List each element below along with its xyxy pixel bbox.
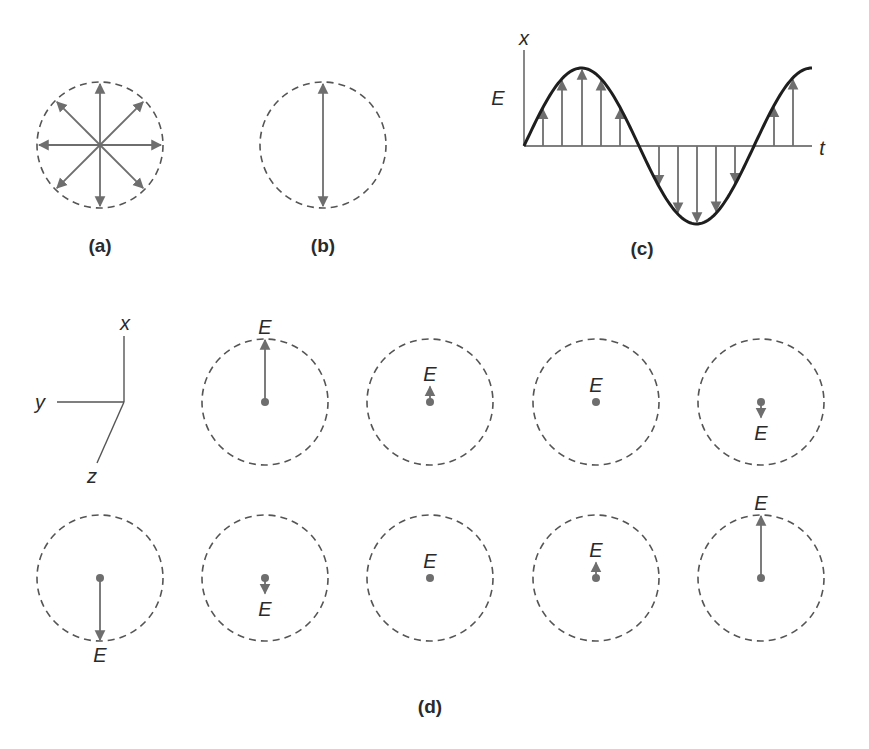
axis-z-label: z (86, 465, 97, 487)
field-circle: E (367, 339, 493, 465)
origin-dot (426, 574, 434, 582)
axis-y-label: y (33, 391, 46, 413)
axis-t-label: t (819, 137, 826, 159)
caption-d: (d) (418, 696, 442, 717)
e-vector-arrows (39, 84, 161, 206)
field-circle: E (698, 492, 824, 641)
field-circle: E (367, 515, 493, 641)
axis-e-label: E (491, 87, 505, 109)
panel-b-polarized: (b) (260, 82, 386, 256)
caption-a: (a) (88, 235, 111, 256)
field-circle: E (202, 515, 328, 641)
panel-d-axes: x y z (33, 312, 131, 487)
field-circle: E (698, 339, 824, 465)
e-label: E (93, 644, 107, 666)
e-label: E (589, 539, 603, 561)
e-label: E (423, 550, 437, 572)
polarization-figure: (a) (b) x E t (c) x y z EEEE EEEEE (d) (0, 0, 869, 749)
arrow-icon (100, 102, 143, 145)
z-axis (97, 402, 124, 463)
e-label: E (754, 422, 768, 444)
panel-c-wave: x E t (c) (491, 27, 826, 259)
axis-x-label: x (119, 312, 131, 334)
e-label: E (589, 374, 603, 396)
panel-a-unpolarized: (a) (37, 82, 163, 256)
arrow-icon (57, 145, 100, 188)
panel-d-row-1: EEEE (202, 316, 824, 465)
arrow-icon (100, 145, 143, 188)
panel-d-row-2: EEEEE (37, 492, 824, 666)
e-label: E (258, 316, 272, 338)
field-circle: E (533, 339, 659, 465)
field-circle: E (533, 515, 659, 641)
caption-c: (c) (630, 238, 653, 259)
e-label: E (423, 363, 437, 385)
axis-x-label: x (518, 27, 530, 49)
field-circle: E (202, 316, 328, 465)
field-circle: E (37, 515, 163, 666)
caption-b: (b) (311, 235, 335, 256)
arrow-icon (57, 102, 100, 145)
e-label: E (754, 492, 768, 514)
origin-dot (592, 398, 600, 406)
e-label: E (258, 598, 272, 620)
